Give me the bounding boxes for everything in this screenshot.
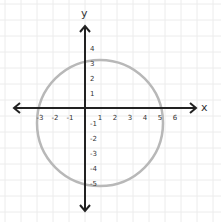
x-axis-label: x xyxy=(201,101,208,114)
circle-curve xyxy=(37,60,163,186)
y-tick-label: -1 xyxy=(90,120,97,128)
y-tick-label: 3 xyxy=(90,60,94,68)
graph-canvas: -3-2-11234564321-1-2-3-4-5 x y xyxy=(0,0,221,222)
coordinate-plane: -3-2-11234564321-1-2-3-4-5 x y xyxy=(0,0,221,222)
x-tick-label: 3 xyxy=(128,114,132,122)
y-tick-label: -3 xyxy=(90,150,97,158)
y-tick-label: -2 xyxy=(90,135,97,143)
x-tick-label: 1 xyxy=(98,114,102,122)
x-tick-label: 5 xyxy=(158,114,162,122)
x-tick-label: 2 xyxy=(113,114,117,122)
y-tick-label: -5 xyxy=(90,180,97,188)
x-tick-label: -1 xyxy=(67,114,74,122)
y-tick-label: 2 xyxy=(90,75,94,83)
x-tick-label: 6 xyxy=(173,114,178,122)
circle-shape xyxy=(37,60,163,186)
grid-lines xyxy=(0,0,221,222)
y-tick-label: -4 xyxy=(90,165,98,173)
x-tick-label: 4 xyxy=(143,114,148,122)
y-tick-label: 4 xyxy=(90,45,95,53)
y-axis-label: y xyxy=(81,7,88,20)
x-tick-label: -3 xyxy=(37,114,44,122)
x-tick-label: -2 xyxy=(52,114,59,122)
y-tick-label: 1 xyxy=(90,90,94,98)
